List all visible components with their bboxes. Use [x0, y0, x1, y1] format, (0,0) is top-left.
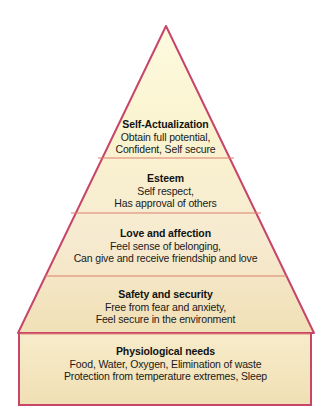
- tier-line-esteem-2: Has approval of others: [0, 197, 331, 209]
- tier-line-self-actualization-1: Obtain full potential,: [0, 131, 331, 143]
- tier-line-self-actualization-2: Confident, Self secure: [0, 143, 331, 155]
- tier-title-love-and-affection: Love and affection: [0, 227, 331, 239]
- tier-line-love-and-affection-1: Feel sense of belonging,: [0, 240, 331, 252]
- tier-line-safety-and-security-1: Free from fear and anxiety,: [0, 301, 331, 313]
- pyramid-diagram: Self-Actualization Obtain full potential…: [0, 0, 331, 414]
- tier-title-self-actualization: Self-Actualization: [0, 118, 331, 130]
- tier-title-physiological-needs: Physiological needs: [0, 345, 331, 357]
- tier-line-esteem-1: Self respect,: [0, 185, 331, 197]
- tier-line-love-and-affection-2: Can give and receive friendship and love: [0, 252, 331, 264]
- tier-line-safety-and-security-2: Feel secure in the environment: [0, 313, 331, 325]
- tier-line-physiological-needs-1: Food, Water, Oxygen, Elimination of wast…: [0, 358, 331, 370]
- tier-esteem[interactable]: Esteem Self respect, Has approval of oth…: [0, 172, 331, 209]
- tier-title-esteem: Esteem: [0, 172, 331, 184]
- tier-physiological-needs[interactable]: Physiological needs Food, Water, Oxygen,…: [0, 345, 331, 382]
- tier-self-actualization[interactable]: Self-Actualization Obtain full potential…: [0, 118, 331, 155]
- tier-line-physiological-needs-2: Protection from temperature extremes, Sl…: [0, 370, 331, 382]
- tier-safety-and-security[interactable]: Safety and security Free from fear and a…: [0, 288, 331, 325]
- tier-love-and-affection[interactable]: Love and affection Feel sense of belongi…: [0, 227, 331, 264]
- tier-title-safety-and-security: Safety and security: [0, 288, 331, 300]
